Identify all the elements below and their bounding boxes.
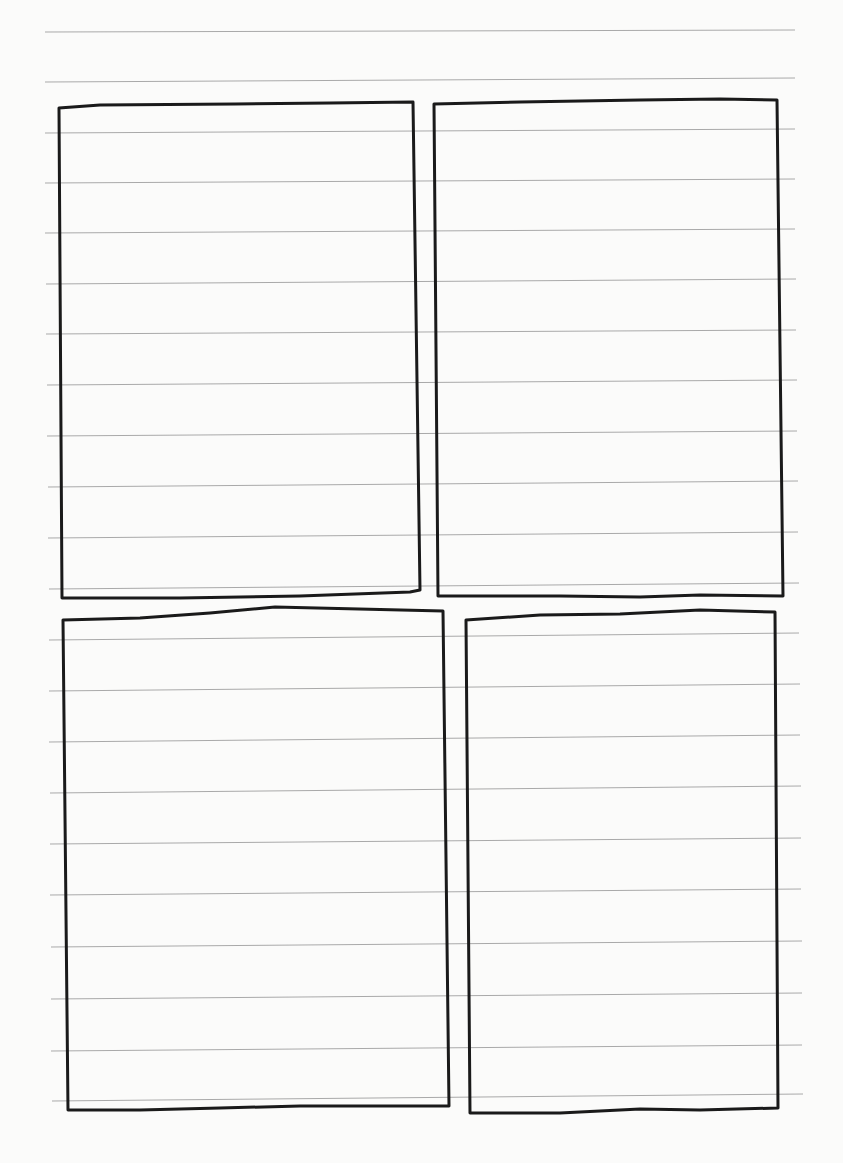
ruled-lines xyxy=(45,30,803,1101)
ruled-line xyxy=(49,633,799,640)
lined-paper-sheet xyxy=(0,0,843,1163)
ruled-line xyxy=(47,380,797,385)
frame-bottom-left xyxy=(63,607,449,1110)
ruled-line xyxy=(47,431,797,436)
ruled-line xyxy=(48,532,798,538)
ruled-line xyxy=(49,583,799,589)
ruled-line xyxy=(46,330,796,334)
ruled-line xyxy=(52,1094,803,1101)
ruled-line xyxy=(50,786,801,793)
ruled-line xyxy=(45,179,795,183)
frame-top-left xyxy=(59,102,420,598)
frame-top-right xyxy=(434,99,783,597)
storyboard-frames xyxy=(59,99,783,1113)
ruled-line xyxy=(49,684,800,691)
ruled-line xyxy=(50,838,801,844)
paper-canvas xyxy=(0,0,843,1163)
ruled-line xyxy=(48,481,798,487)
ruled-line xyxy=(45,30,795,32)
ruled-line xyxy=(51,993,802,999)
ruled-line xyxy=(45,78,795,82)
ruled-line xyxy=(45,129,795,133)
ruled-line xyxy=(45,229,795,233)
ruled-line xyxy=(51,941,802,947)
ruled-line xyxy=(46,279,796,284)
ruled-line xyxy=(50,889,801,895)
ruled-line xyxy=(49,735,800,742)
ruled-line xyxy=(51,1045,802,1051)
